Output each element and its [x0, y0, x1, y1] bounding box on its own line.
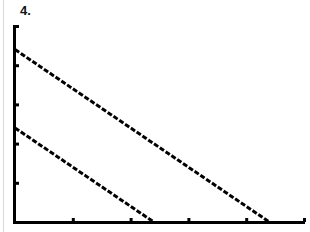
plot-lines: [15, 50, 269, 222]
y-tick: [15, 103, 19, 106]
plot-line: [15, 50, 269, 222]
axes: [13, 25, 306, 224]
y-axis-cap: [13, 25, 19, 28]
x-tick: [130, 218, 133, 222]
y-axis: [13, 26, 16, 224]
x-axis: [13, 221, 305, 224]
y-tick: [15, 143, 19, 146]
y-tick: [15, 64, 19, 67]
x-tick: [245, 218, 248, 222]
line-chart: [0, 0, 310, 232]
x-tick: [303, 218, 306, 222]
x-tick: [72, 218, 75, 222]
y-tick: [15, 182, 19, 185]
x-tick: [187, 218, 190, 222]
plot-line: [15, 128, 154, 222]
